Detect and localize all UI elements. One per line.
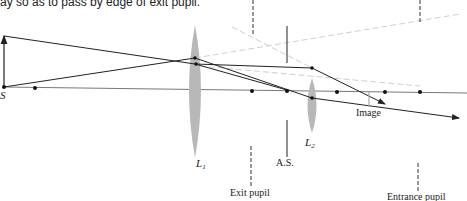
- lens2-label: L2: [304, 136, 315, 150]
- aperture-stop-label: A.S.: [276, 157, 294, 168]
- optical-system-diagram: S L1 L2 A.S. Image Exit pupil Entrance p…: [0, 0, 467, 201]
- lens1-label: L1: [195, 157, 206, 171]
- source-label: S: [0, 89, 6, 101]
- optical-axis: [4, 87, 467, 93]
- exit-pupil-label: Exit pupil: [230, 187, 270, 198]
- image-label: Image: [356, 107, 382, 118]
- virtual-ray: [200, 66, 420, 86]
- ray-segment: [195, 64, 287, 90]
- virtual-ray: [232, 27, 312, 68]
- lens-2: [308, 78, 317, 133]
- entrance-pupil-label: Entrance pupil: [387, 191, 446, 201]
- lens-1: [189, 25, 201, 158]
